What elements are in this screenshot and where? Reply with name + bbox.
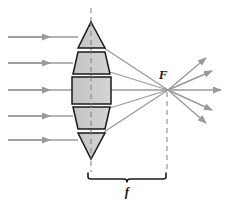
optics-diagram-canvas: F f <box>0 0 231 207</box>
focal-point-label: F <box>158 67 168 82</box>
prism-center-rectangle <box>72 77 111 104</box>
optics-figure: F f <box>0 0 231 207</box>
